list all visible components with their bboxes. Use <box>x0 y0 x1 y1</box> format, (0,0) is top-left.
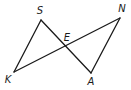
label-A: A <box>87 76 95 87</box>
segment-NA <box>91 18 120 73</box>
label-N: N <box>118 3 126 14</box>
segment-SK <box>14 20 41 72</box>
geometry-diagram: S N K A E <box>0 0 131 90</box>
label-E: E <box>64 32 71 43</box>
segment-KN <box>14 18 120 72</box>
label-K: K <box>5 74 13 85</box>
label-S: S <box>37 5 44 16</box>
segment-SA <box>41 20 91 73</box>
